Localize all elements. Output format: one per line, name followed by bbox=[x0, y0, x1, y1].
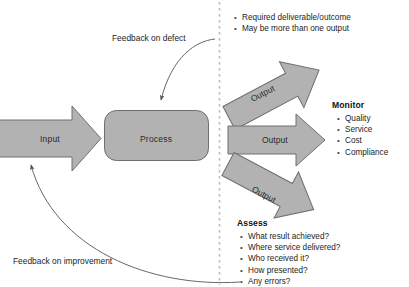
diagram-canvas: Input Process Output Output Output Requi… bbox=[0, 0, 409, 287]
monitor-heading: Monitor bbox=[332, 100, 364, 110]
list-item: Cost bbox=[337, 135, 388, 146]
list-item: How presented? bbox=[240, 265, 340, 276]
list-item: What result achieved? bbox=[240, 231, 340, 242]
assess-heading: Assess bbox=[237, 218, 268, 228]
output-notes-list: Required deliverable/outcome May be more… bbox=[234, 12, 351, 34]
monitor-list: Quality Service Cost Compliance bbox=[337, 113, 388, 158]
output-arrow-right-label: Output bbox=[262, 135, 288, 145]
assess-list: What result achieved? Where service deli… bbox=[240, 231, 340, 287]
feedback-defect-label: Feedback on defect bbox=[112, 33, 186, 43]
process-label: Process bbox=[140, 134, 172, 144]
list-item: Who received it? bbox=[240, 253, 340, 264]
list-item: Any errors? bbox=[240, 276, 340, 287]
list-item: Required deliverable/outcome bbox=[234, 12, 351, 23]
feedback-defect-arrow-line bbox=[161, 39, 215, 100]
list-item: May be more than one output bbox=[234, 23, 351, 34]
list-item: Where service delivered? bbox=[240, 242, 340, 253]
input-label: Input bbox=[40, 134, 60, 144]
list-item: Service bbox=[337, 124, 388, 135]
output-arrow-down-shape bbox=[216, 141, 326, 232]
feedback-improvement-label: Feedback on improvement bbox=[13, 256, 112, 266]
list-item: Quality bbox=[337, 113, 388, 124]
list-item: Compliance bbox=[337, 147, 388, 158]
